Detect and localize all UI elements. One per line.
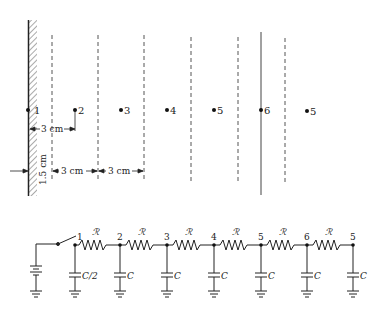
branch-3 (161, 245, 173, 297)
capacitor-label: C (314, 271, 321, 281)
capacitor-label: C (127, 271, 134, 281)
branch-7 (347, 245, 359, 297)
capacitor-label: C/2 (82, 271, 98, 281)
point-label: 5 (217, 105, 223, 116)
field-diagram: 1 2 3 4 5 6 5 3 cm 1.5 (10, 20, 316, 196)
dim-label: 3 cm (108, 166, 131, 176)
node-label: 2 (117, 232, 123, 242)
node-label: 6 (304, 232, 310, 242)
capacitor-label: C (360, 271, 367, 281)
dim-label: 1.5 cm (38, 154, 48, 185)
branch-5 (255, 245, 267, 297)
point-label: 5 (310, 106, 316, 117)
dashed-boundaries (52, 35, 285, 182)
capacitor-label: C (268, 271, 275, 281)
points: 1 2 3 4 5 6 5 (26, 105, 316, 117)
node-label: 5 (258, 232, 264, 242)
capacitor-label: C (174, 271, 181, 281)
resistor-label: ℛ (279, 227, 287, 237)
point-label: 4 (170, 105, 176, 116)
point-3 (119, 108, 123, 112)
node-label: 4 (211, 232, 217, 242)
diagram-canvas: 1 2 3 4 5 6 5 3 cm 1.5 (0, 0, 377, 314)
rc-ladder-circuit (30, 236, 359, 297)
resistor-label: ℛ (92, 227, 100, 237)
branch-2 (114, 245, 126, 297)
point-label: 2 (78, 105, 84, 116)
resistor-label: ℛ (232, 227, 240, 237)
point-6 (259, 108, 263, 112)
ground-icon (30, 291, 42, 297)
dim-1-5cm (10, 169, 28, 173)
point-5 (212, 108, 216, 112)
node-label: 3 (164, 232, 170, 242)
switch-icon (58, 236, 76, 244)
point-4 (165, 108, 169, 112)
point-label: 1 (34, 105, 40, 116)
dim-label: 3 cm (61, 166, 84, 176)
capacitor-label: C (221, 271, 228, 281)
branch-6 (301, 245, 313, 297)
branch-1 (69, 245, 81, 297)
point-1 (26, 108, 30, 112)
resistor-label: ℛ (325, 227, 333, 237)
point-5-mirror (305, 109, 309, 113)
point-label: 3 (124, 105, 130, 116)
point-label: 6 (264, 105, 270, 116)
dim-label: 3 cm (41, 124, 64, 134)
branch-4 (208, 245, 220, 297)
node-label: 1 (77, 232, 83, 242)
resistor-label: ℛ (185, 227, 193, 237)
resistor-label: ℛ (138, 227, 146, 237)
node-label: 5 (350, 232, 356, 242)
